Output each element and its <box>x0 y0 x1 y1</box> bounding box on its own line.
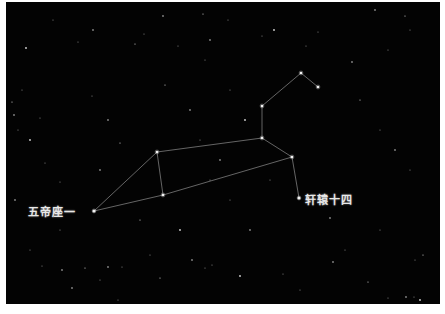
background-star <box>394 149 396 151</box>
constellation-star <box>92 209 95 212</box>
label-wudizuo-yi: 五帝座一 <box>28 203 76 219</box>
background-star <box>107 266 109 268</box>
constellation-star <box>156 151 159 154</box>
constellation-star <box>261 137 264 140</box>
background-star <box>367 281 368 282</box>
background-star <box>52 19 53 20</box>
background-star <box>139 219 140 220</box>
background-star <box>41 265 42 266</box>
constellation-star <box>317 86 320 89</box>
star-chart-image: 五帝座一 轩辕十四 <box>6 2 440 304</box>
background-star <box>387 49 388 50</box>
background-star <box>419 299 421 301</box>
background-star <box>249 229 251 231</box>
background-star <box>299 289 300 290</box>
background-star <box>261 35 262 36</box>
background-star <box>209 39 211 41</box>
background-star <box>99 279 100 280</box>
background-star <box>239 275 241 277</box>
background-star <box>244 119 246 121</box>
background-star <box>229 199 230 200</box>
background-star <box>359 99 360 100</box>
background-star <box>413 296 414 297</box>
background-star <box>149 254 150 255</box>
background-star <box>229 89 230 90</box>
background-star <box>273 29 275 31</box>
label-xuanyuan-shisi: 轩辕十四 <box>305 191 353 207</box>
background-star <box>121 266 122 267</box>
background-star <box>134 43 135 44</box>
constellation-star <box>291 156 294 159</box>
constellation-line <box>301 73 318 87</box>
constellation-line <box>157 138 262 152</box>
background-star <box>374 9 376 11</box>
background-star <box>25 47 27 49</box>
background-star <box>414 259 415 260</box>
background-star <box>305 45 306 46</box>
background-star <box>209 179 210 180</box>
constellation-line <box>163 157 292 195</box>
background-star <box>44 162 45 163</box>
background-star <box>351 61 353 63</box>
background-star <box>344 249 345 250</box>
background-star <box>143 33 144 34</box>
constellation-star <box>261 105 264 108</box>
background-star <box>17 129 18 130</box>
background-star <box>191 259 193 261</box>
background-star <box>164 84 165 85</box>
background-star <box>92 29 94 31</box>
background-star <box>99 169 101 171</box>
background-star <box>379 229 380 230</box>
background-star <box>405 296 407 298</box>
background-star <box>329 217 331 219</box>
background-star <box>91 95 92 96</box>
constellation-star <box>300 72 303 75</box>
background-star <box>332 261 334 263</box>
constellation-star <box>297 196 300 199</box>
background-star <box>59 181 60 182</box>
background-star <box>409 169 410 170</box>
constellation-stars <box>92 71 321 214</box>
background-star <box>422 254 423 255</box>
background-star <box>199 139 200 140</box>
background-star <box>177 45 178 46</box>
background-star <box>13 114 15 116</box>
background-star <box>219 159 221 161</box>
background-star <box>117 299 118 300</box>
background-star <box>409 29 410 30</box>
background-star <box>59 229 60 230</box>
background-star <box>11 101 12 102</box>
background-star <box>14 199 16 201</box>
background-star <box>282 273 283 274</box>
constellation-line <box>94 195 163 211</box>
background-star <box>179 229 181 231</box>
background-star <box>84 267 85 268</box>
background-star <box>387 297 388 298</box>
background-star <box>61 269 63 271</box>
constellation-star <box>162 194 165 197</box>
constellation-lines <box>94 73 318 211</box>
background-stars <box>11 9 423 301</box>
background-star <box>211 264 212 265</box>
background-star <box>71 287 73 289</box>
background-star <box>404 15 405 16</box>
background-star <box>29 139 31 141</box>
constellation-svg <box>6 2 440 304</box>
background-star <box>227 19 228 20</box>
background-star <box>39 117 40 118</box>
background-star <box>162 15 164 17</box>
background-star <box>204 267 205 268</box>
background-star <box>317 31 318 32</box>
background-star <box>189 109 191 111</box>
background-star <box>29 249 30 250</box>
constellation-line <box>157 152 163 195</box>
constellation-line <box>262 73 301 106</box>
background-star <box>107 119 109 121</box>
background-star <box>77 41 78 42</box>
background-star <box>159 277 160 278</box>
background-star <box>379 129 380 130</box>
constellation-line <box>94 152 157 211</box>
constellation-line <box>292 157 299 198</box>
background-star <box>119 142 120 143</box>
background-star <box>269 179 270 180</box>
